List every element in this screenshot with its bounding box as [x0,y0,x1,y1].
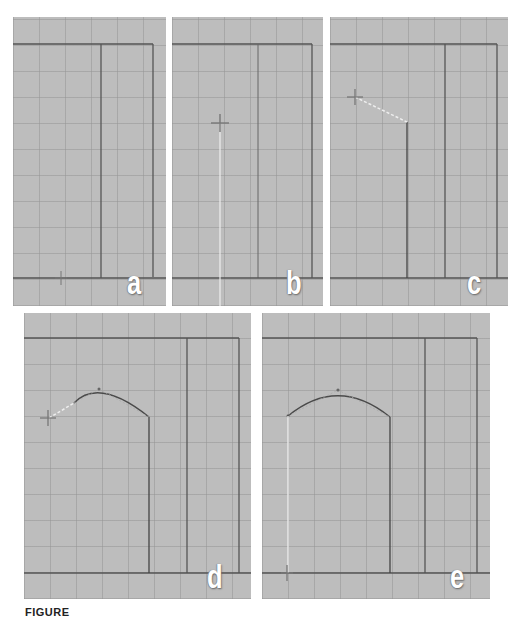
panel-label: a [127,265,141,299]
crosshair-cursor-icon [281,565,293,581]
crosshair-cursor-icon [347,89,363,105]
panel-label: c [467,265,481,299]
panel-d: d [24,313,251,599]
panel-label: b [286,265,302,299]
crosshair-cursor-icon [211,114,229,132]
caption-prefix: FIGURE [25,606,70,618]
panel-b: b [172,17,323,306]
panel-e: e [262,313,490,599]
panel-a: a [13,17,166,306]
panel-label: e [450,559,464,593]
figure-caption: FIGURE [25,606,70,618]
crosshair-cursor-icon [40,410,56,426]
crosshair-cursor-icon [55,271,67,285]
viewport-drawing-c [330,17,508,306]
viewport-drawing-a [13,17,166,306]
panel-label: d [207,559,223,593]
panel-c: c [330,17,508,306]
